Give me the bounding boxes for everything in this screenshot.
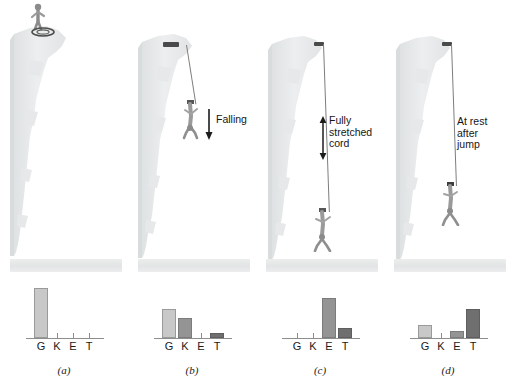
bar-b-k [178, 318, 192, 338]
bar-d-t [466, 309, 480, 338]
scene-b: Falling [128, 0, 256, 278]
scene-c: Fully stretched cord [256, 0, 384, 278]
callout-at-rest-after-jump: At rest after jump [457, 116, 487, 151]
scene-a [0, 0, 128, 278]
bar-b-g [162, 309, 176, 338]
panel-letter-d: (d) [384, 364, 512, 376]
bar-c-t [338, 328, 352, 338]
axis-tick-labels-c: GKET [282, 340, 360, 354]
coiled-cord-a [30, 27, 56, 37]
cliff-illustration-d [384, 0, 512, 272]
bar-a-g [34, 288, 48, 338]
tick-label-a-t: T [86, 340, 93, 352]
bar-d-e [450, 331, 464, 338]
axis-tick-labels-b: GKET [154, 340, 232, 354]
cord-anchor-b [163, 42, 179, 47]
tick-label-d-k: K [437, 340, 444, 352]
plot-area-c [288, 280, 354, 338]
scene-d: At rest after jump [384, 0, 512, 278]
tick-label-c-e: E [325, 340, 332, 352]
tick-label-b-k: K [181, 340, 188, 352]
energy-bar-chart-b: GKET (b) [128, 278, 256, 386]
x-axis-c [282, 338, 360, 339]
tick-label-a-k: K [53, 340, 60, 352]
bar-d-g [418, 325, 432, 338]
panel-d: At rest after jump GKET (d) [384, 0, 512, 386]
axis-tick-labels-a: GKET [26, 340, 104, 354]
jumper-figure-b [178, 100, 204, 140]
tick-label-c-t: T [342, 340, 349, 352]
callout-fully-stretched-cord: Fully stretched cord [329, 115, 372, 150]
stretched-cord-double-arrow-c [318, 116, 328, 160]
panel-letter-b: (b) [128, 364, 256, 376]
x-axis-a [26, 338, 104, 339]
panel-a: GKET (a) [0, 0, 128, 386]
jumper-figure-d [439, 182, 465, 226]
bar-c-e [322, 298, 336, 338]
energy-bar-chart-a: GKET (a) [0, 278, 128, 386]
ground-strip-d [394, 259, 506, 272]
ground-strip-c [266, 259, 378, 272]
x-axis-d [410, 338, 488, 339]
tick-label-c-k: K [309, 340, 316, 352]
tick-label-b-e: E [197, 340, 204, 352]
cliff-illustration-a [0, 0, 128, 272]
plot-area-b [160, 280, 226, 338]
energy-bar-chart-d: GKET (d) [384, 278, 512, 386]
tick-label-a-e: E [69, 340, 76, 352]
tick-label-b-t: T [214, 340, 221, 352]
ground-strip-a [10, 259, 122, 272]
plot-area-a [32, 280, 98, 338]
tick-label-b-g: G [165, 340, 174, 352]
tick-label-d-e: E [453, 340, 460, 352]
axis-tick-labels-d: GKET [410, 340, 488, 354]
x-axis-b [154, 338, 232, 339]
panel-c: Fully stretched cord GKET (c) [256, 0, 384, 386]
falling-arrow-b [204, 109, 214, 141]
ground-strip-b [138, 259, 250, 272]
panel-b: Falling GKET (b) [128, 0, 256, 386]
jumper-figure-c [311, 208, 337, 252]
tick-label-d-t: T [470, 340, 477, 352]
callout-falling: Falling [216, 114, 247, 126]
tick-label-a-g: G [37, 340, 46, 352]
bungee-energy-figure: GKET (a) [0, 0, 513, 386]
tick-label-c-g: G [293, 340, 302, 352]
tick-label-d-g: G [421, 340, 430, 352]
panel-letter-c: (c) [256, 364, 384, 376]
plot-area-d [416, 280, 482, 338]
energy-bar-chart-c: GKET (c) [256, 278, 384, 386]
panel-letter-a: (a) [0, 364, 128, 376]
